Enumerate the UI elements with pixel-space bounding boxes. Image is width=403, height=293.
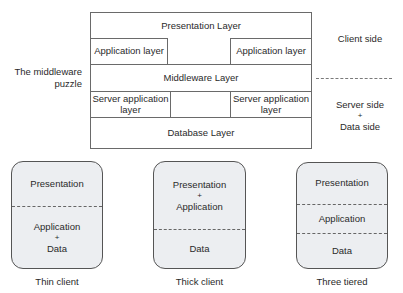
server-application-layer-right: Server application layer — [230, 91, 312, 118]
thin-application-text: Application — [34, 221, 80, 232]
thin-client-caption-text: Thin client — [35, 276, 78, 287]
thick-application-text: Application — [176, 201, 222, 212]
presentation-layer-text: Presentation Layer — [161, 21, 241, 32]
three-data: Data — [297, 234, 387, 268]
thick-client-box: Presentation + Application Data — [153, 161, 246, 269]
middleware-layer: Middleware Layer — [90, 64, 312, 92]
three-presentation: Presentation — [297, 163, 387, 204]
client-server-divider — [316, 78, 392, 79]
middleware-layer-text: Middleware Layer — [164, 73, 239, 84]
plus-sign: + — [320, 110, 400, 121]
three-tiered-caption-text: Three tiered — [316, 276, 367, 287]
thin-data-text: Data — [47, 243, 67, 254]
thin-client-caption: Thin client — [11, 276, 103, 287]
thin-application-data: Application + Data — [12, 207, 102, 268]
server-app-left-line1: Server application — [92, 94, 168, 105]
three-tiered-caption: Three tiered — [296, 276, 388, 287]
thick-data: Data — [154, 230, 245, 268]
client-side-label: Client side — [320, 33, 400, 45]
thick-client-caption: Thick client — [153, 276, 246, 287]
middleware-puzzle-label: The middleware puzzle — [0, 66, 82, 90]
three-data-text: Data — [332, 246, 352, 257]
database-layer-text: Database Layer — [167, 128, 234, 139]
thin-presentation-text: Presentation — [30, 179, 83, 190]
client-side-text: Client side — [338, 33, 382, 44]
three-tiered-box: Presentation Application Data — [296, 162, 388, 269]
application-layer-left: Application layer — [90, 38, 168, 65]
server-application-layer-left: Server application layer — [90, 91, 171, 118]
three-application-text: Application — [319, 214, 365, 225]
application-layer-left-text: Application layer — [94, 46, 164, 57]
data-side-text: Data side — [320, 121, 400, 132]
thin-client-box: Presentation Application + Data — [11, 161, 103, 269]
presentation-layer: Presentation Layer — [90, 12, 312, 39]
three-presentation-text: Presentation — [315, 178, 368, 189]
three-application: Application — [297, 205, 387, 233]
server-side-text: Server side — [320, 99, 400, 110]
thick-client-caption-text: Thick client — [176, 276, 224, 287]
application-layer-right-text: Application layer — [236, 46, 306, 57]
label-line-2: puzzle — [0, 78, 82, 90]
server-side-label: Server side + Data side — [320, 99, 400, 132]
server-app-left-line2: layer — [120, 105, 141, 116]
thick-data-text: Data — [189, 244, 209, 255]
plus-sign: + — [55, 232, 60, 243]
label-line-1: The middleware — [0, 66, 82, 78]
thick-presentation-text: Presentation — [173, 179, 226, 190]
plus-sign: + — [197, 190, 202, 201]
thick-presentation-application: Presentation + Application — [154, 162, 245, 229]
server-app-right-line2: layer — [261, 105, 282, 116]
application-layer-right: Application layer — [230, 38, 312, 65]
database-layer: Database Layer — [90, 117, 312, 149]
thin-presentation: Presentation — [12, 162, 102, 206]
server-app-right-line1: Server application — [233, 94, 309, 105]
